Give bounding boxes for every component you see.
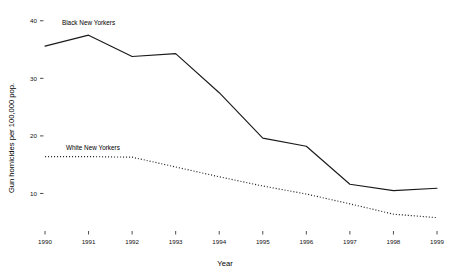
x-tick-label: 1992 bbox=[125, 238, 139, 245]
x-tick-label: 1999 bbox=[430, 238, 444, 245]
y-axis-title: Gun homicides per 100,000 pop. bbox=[7, 83, 16, 193]
y-tick-label: 20 bbox=[30, 132, 37, 139]
x-axis-title: Year bbox=[217, 259, 233, 268]
series-line-black-new-yorkers bbox=[45, 35, 437, 190]
chart-canvas: 10203040 1990199119921993199419951996199… bbox=[0, 0, 450, 276]
x-axis-tick-labels: 1990199119921993199419951996199719981999 bbox=[38, 238, 444, 245]
y-axis-tick-marks bbox=[40, 21, 44, 194]
y-tick-label: 40 bbox=[30, 17, 37, 24]
x-tick-label: 1994 bbox=[212, 238, 226, 245]
x-tick-label: 1998 bbox=[387, 238, 401, 245]
series-label-black-new-yorkers: Black New Yorkers bbox=[62, 19, 115, 26]
series-lines bbox=[45, 35, 437, 217]
x-tick-label: 1995 bbox=[256, 238, 270, 245]
series-inline-labels: Black New YorkersWhite New Yorkers bbox=[62, 19, 120, 150]
x-tick-label: 1996 bbox=[299, 238, 313, 245]
series-line-white-new-yorkers bbox=[45, 157, 437, 218]
x-tick-label: 1991 bbox=[82, 238, 96, 245]
y-tick-label: 30 bbox=[30, 75, 37, 82]
series-label-white-new-yorkers: White New Yorkers bbox=[66, 144, 120, 151]
gun-homicides-line-chart: 10203040 1990199119921993199419951996199… bbox=[0, 0, 450, 276]
x-tick-label: 1997 bbox=[343, 238, 357, 245]
x-tick-label: 1990 bbox=[38, 238, 52, 245]
x-axis-tick-marks bbox=[45, 231, 437, 235]
x-tick-label: 1993 bbox=[169, 238, 183, 245]
y-axis-tick-labels: 10203040 bbox=[30, 17, 37, 197]
y-tick-label: 10 bbox=[30, 190, 37, 197]
